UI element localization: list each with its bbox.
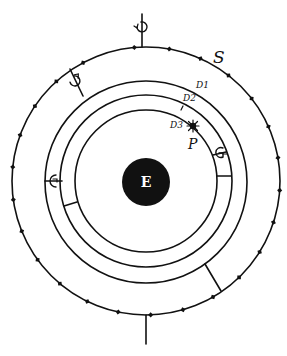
outer-ring-tick — [180, 307, 185, 312]
outer-ring-tick — [33, 104, 37, 108]
top-symbol-icon — [134, 22, 147, 32]
outer-ring-tick — [10, 164, 15, 169]
sun-label: S — [213, 47, 225, 67]
outer-ring-tick — [36, 258, 40, 262]
outer-ring-tick — [18, 133, 23, 138]
ring-1-label: D1 — [195, 80, 209, 90]
outer-ring-tick — [237, 276, 241, 280]
planet-star-icon — [187, 120, 199, 132]
earth-label: E — [141, 174, 152, 190]
outer-ring-tick — [148, 312, 153, 317]
outer-ring-tick — [132, 45, 137, 50]
outer-ring-tick — [275, 155, 280, 160]
outer-ring-tick — [226, 73, 230, 77]
outer-ring-tick — [250, 96, 254, 100]
upper-left-radial-line — [70, 69, 83, 96]
outer-ring-tick — [266, 124, 271, 129]
lower-right-radial-line — [205, 264, 221, 291]
outer-ring-tick — [167, 47, 172, 52]
outer-ring-tick — [277, 188, 282, 193]
small-tick-mark — [181, 106, 183, 110]
outer-ring-tick — [198, 56, 203, 61]
outer-ring-tick — [271, 220, 276, 225]
outer-ring-tick — [116, 310, 121, 315]
ring-2-label: D2 — [182, 93, 196, 103]
outer-ring-tick — [11, 197, 16, 202]
outer-ring-tick — [58, 282, 62, 286]
ring-3-label: D3 — [169, 120, 183, 130]
outer-ring-tick — [54, 80, 58, 84]
planet-label: P — [187, 136, 198, 152]
outer-ring-tick — [19, 229, 24, 234]
left-lower-radial-line — [64, 202, 77, 206]
astronomical-orbit-diagram: E S P D1 D2 D3 — [0, 0, 287, 356]
